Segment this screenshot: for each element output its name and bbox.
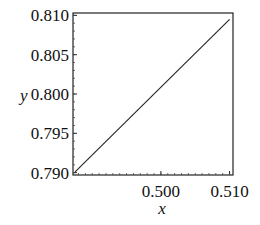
y-tick-label: 0.810 bbox=[31, 6, 69, 25]
y-axis-label: y bbox=[18, 86, 28, 105]
data-series bbox=[75, 19, 230, 172]
x-tick-label: 0.510 bbox=[210, 182, 248, 201]
y-tick-label: 0.795 bbox=[31, 124, 69, 143]
line-chart: 0.7900.7950.8000.8050.810 0.5000.510 y x bbox=[0, 0, 260, 225]
y-tick-label: 0.805 bbox=[31, 46, 69, 65]
y-tick-label: 0.800 bbox=[31, 85, 69, 104]
y-axis-ticks: 0.7900.7950.8000.8050.810 bbox=[31, 6, 77, 182]
line-series bbox=[75, 19, 230, 172]
x-axis-label: x bbox=[157, 199, 166, 218]
y-tick-label: 0.790 bbox=[31, 164, 69, 183]
